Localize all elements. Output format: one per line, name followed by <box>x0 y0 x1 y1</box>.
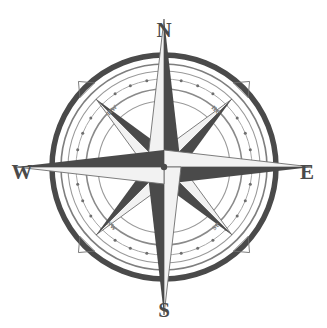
degree-dot <box>196 84 199 87</box>
star-point-south-light <box>164 167 181 315</box>
degree-dot <box>129 84 132 87</box>
degree-dot <box>89 214 92 217</box>
degree-dot <box>244 199 247 202</box>
degree-dot <box>89 117 92 120</box>
label-east: E <box>300 160 314 184</box>
degree-dot <box>114 239 117 242</box>
star-point-east-dark <box>164 167 312 184</box>
degree-dot <box>145 79 148 82</box>
label-north: N <box>156 18 171 42</box>
degree-dot <box>236 214 239 217</box>
degree-dot <box>249 183 252 186</box>
degree-dot <box>129 247 132 250</box>
degree-dot <box>249 148 252 151</box>
label-west: W <box>12 160 33 184</box>
star-point-south-dark <box>147 167 164 315</box>
degree-dot <box>114 92 117 95</box>
degree-dot <box>76 183 79 186</box>
compass-rose-graphic: nwnesesw N E S W <box>0 0 327 328</box>
center-hub <box>161 164 167 170</box>
degree-dot <box>196 247 199 250</box>
star-point-west-dark <box>16 150 164 167</box>
degree-dot <box>81 132 84 135</box>
degree-dot <box>76 148 79 151</box>
degree-dot <box>211 239 214 242</box>
degree-dot <box>180 79 183 82</box>
degree-dot <box>236 117 239 120</box>
degree-dot <box>180 252 183 255</box>
degree-dot <box>211 92 214 95</box>
star-point-east-light <box>164 150 312 167</box>
label-south: S <box>158 298 170 322</box>
star-point-west-light <box>16 167 164 184</box>
degree-dot <box>81 199 84 202</box>
degree-dot <box>244 132 247 135</box>
degree-dot <box>145 252 148 255</box>
compass-rose-figure: nwnesesw N E S W <box>0 0 327 328</box>
